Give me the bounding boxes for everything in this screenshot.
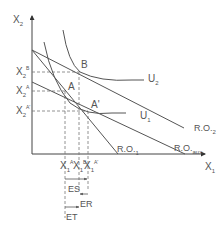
et-label: ET <box>66 212 78 222</box>
ro2-label: R.O.2 <box>194 123 217 135</box>
y-tick-x2-b: X2B <box>16 65 30 79</box>
indifference-curve-u1 <box>44 42 126 114</box>
budget-line-ro2 <box>32 50 184 128</box>
u2-label: U2 <box>148 73 159 86</box>
indifference-curve-diagram: X2 X1 U2 U1 R.O.2 R.O.1 R.O.aux B A A' X… <box>0 0 224 227</box>
x-tick-x1-a: X1A <box>60 159 74 173</box>
y-axis-label: X2 <box>13 14 24 27</box>
point-b-label: B <box>81 59 88 70</box>
y-tick-x2-a: X2A <box>16 84 30 98</box>
er-label: ER <box>80 199 93 209</box>
point-a-label: A <box>68 81 75 92</box>
indifference-curve-u2 <box>63 30 144 80</box>
x-axis-label: X1 <box>205 161 216 174</box>
roaux-label: R.O.aux <box>174 143 202 155</box>
point-aprime-label: A' <box>91 99 100 110</box>
x-tick-x1-aprime: X1A' <box>84 159 98 173</box>
y-tick-x2-aprime: X2A' <box>16 104 30 118</box>
u1-label: U1 <box>140 110 151 123</box>
es-label: ES <box>68 184 80 194</box>
